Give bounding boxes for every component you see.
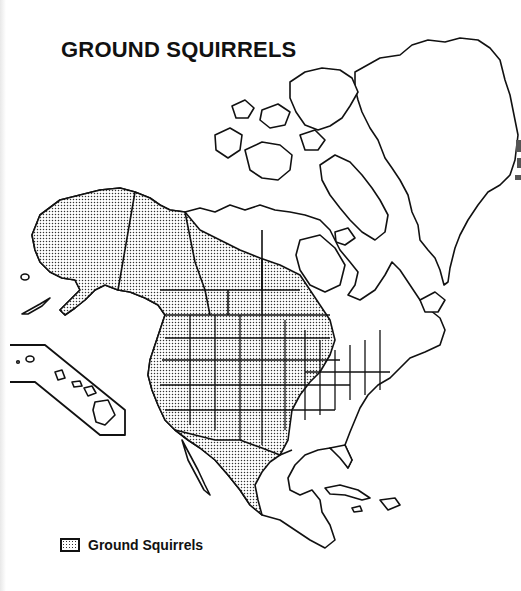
southampton-island bbox=[335, 228, 355, 245]
newfoundland bbox=[420, 292, 445, 312]
jamaica bbox=[352, 506, 362, 512]
aleutian-tip bbox=[22, 298, 50, 314]
banks-island bbox=[215, 128, 242, 158]
map-legend: Ground Squirrels bbox=[60, 537, 203, 553]
baffin-island bbox=[320, 155, 388, 240]
arctic-island-2 bbox=[232, 100, 254, 118]
greenland bbox=[355, 38, 518, 285]
alaska-island bbox=[21, 274, 29, 280]
florida bbox=[330, 445, 352, 468]
arctic-island-1 bbox=[260, 104, 290, 128]
hawaii-inset bbox=[10, 345, 125, 435]
hispaniola bbox=[380, 498, 400, 510]
victoria-island bbox=[245, 142, 292, 180]
ellesmere-island bbox=[290, 68, 358, 130]
arctic-island-3 bbox=[300, 130, 325, 150]
stipple-swatch-icon bbox=[60, 538, 80, 552]
legend-label: Ground Squirrels bbox=[88, 537, 203, 553]
cuba bbox=[325, 485, 370, 500]
north-america-map bbox=[0, 0, 521, 591]
